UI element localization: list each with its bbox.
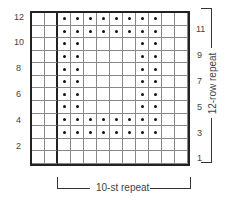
chart-cell — [71, 151, 84, 164]
row-label: 5 — [197, 102, 202, 112]
purl-dot-icon — [102, 118, 105, 121]
chart-cell — [84, 13, 97, 26]
purl-dot-icon — [63, 42, 66, 45]
chart-cell — [71, 26, 84, 39]
purl-dot-icon — [141, 42, 144, 45]
purl-dot-icon — [89, 30, 92, 33]
chart-cell — [175, 76, 188, 89]
chart-cell — [97, 38, 110, 51]
chart-cell — [123, 114, 136, 127]
chart-cell — [84, 151, 97, 164]
chart-cell — [123, 76, 136, 89]
chart-cell — [97, 63, 110, 76]
chart-cell — [32, 13, 45, 26]
chart-cell — [84, 88, 97, 101]
chart-cell — [84, 114, 97, 127]
chart-cell — [45, 76, 58, 89]
stitch-repeat-label: 10-st repeat — [96, 182, 149, 193]
purl-dot-icon — [63, 30, 66, 33]
purl-dot-icon — [63, 131, 66, 134]
chart-cell — [58, 63, 71, 76]
chart-cell — [136, 139, 149, 152]
chart-cell — [32, 51, 45, 64]
purl-dot-icon — [141, 17, 144, 20]
purl-dot-icon — [154, 105, 157, 108]
chart-cell — [175, 126, 188, 139]
purl-dot-icon — [115, 131, 118, 134]
chart-cell — [162, 139, 175, 152]
chart-cell — [32, 76, 45, 89]
purl-dot-icon — [63, 80, 66, 83]
chart-cell — [45, 38, 58, 51]
chart-cell — [123, 13, 136, 26]
chart-cell — [71, 63, 84, 76]
row-label: 8 — [16, 63, 21, 73]
purl-dot-icon — [115, 30, 118, 33]
purl-dot-icon — [102, 30, 105, 33]
chart-cell — [97, 26, 110, 39]
chart-cell — [110, 13, 123, 26]
row-label: 7 — [197, 76, 202, 86]
purl-dot-icon — [76, 131, 79, 134]
chart-cell — [110, 114, 123, 127]
chart-cell — [123, 63, 136, 76]
chart-cell — [149, 88, 162, 101]
chart-cell — [149, 38, 162, 51]
chart-cell — [32, 63, 45, 76]
chart-cell — [175, 151, 188, 164]
purl-dot-icon — [63, 93, 66, 96]
purl-dot-icon — [76, 42, 79, 45]
chart-cell — [149, 26, 162, 39]
chart-cell — [162, 63, 175, 76]
row-repeat-label: 12-row repeat — [207, 42, 218, 126]
purl-dot-icon — [63, 17, 66, 20]
chart-cell — [84, 139, 97, 152]
chart-cell — [97, 101, 110, 114]
chart-cell — [32, 126, 45, 139]
chart-cell — [162, 101, 175, 114]
repeat-bracket — [57, 188, 90, 189]
chart-cell — [123, 88, 136, 101]
row-label: 4 — [16, 115, 21, 125]
chart-cell — [162, 76, 175, 89]
chart-cell — [175, 88, 188, 101]
chart-cell — [84, 51, 97, 64]
chart-cell — [97, 126, 110, 139]
chart-cell — [149, 139, 162, 152]
purl-dot-icon — [154, 80, 157, 83]
chart-cell — [32, 101, 45, 114]
chart-cell — [162, 88, 175, 101]
chart-cell — [84, 38, 97, 51]
chart-cell — [58, 76, 71, 89]
purl-dot-icon — [154, 30, 157, 33]
chart-cell — [45, 151, 58, 164]
chart-cell — [136, 101, 149, 114]
chart-cell — [162, 114, 175, 127]
repeat-bracket — [201, 162, 212, 163]
row-label: 11 — [196, 24, 205, 34]
chart-cell — [175, 114, 188, 127]
purl-dot-icon — [76, 118, 79, 121]
purl-dot-icon — [63, 118, 66, 121]
chart-cell — [45, 126, 58, 139]
purl-dot-icon — [63, 68, 66, 71]
repeat-bracket — [150, 188, 181, 189]
repeat-bracket — [201, 8, 212, 9]
purl-dot-icon — [76, 93, 79, 96]
chart-cell — [110, 139, 123, 152]
purl-dot-icon — [141, 68, 144, 71]
chart-cell — [71, 126, 84, 139]
chart-cell — [58, 88, 71, 101]
purl-dot-icon — [141, 131, 144, 134]
chart-cell — [97, 88, 110, 101]
chart-cell — [110, 51, 123, 64]
chart-cell — [71, 38, 84, 51]
chart-cell — [71, 101, 84, 114]
purl-dot-icon — [76, 105, 79, 108]
chart-cell — [123, 51, 136, 64]
purl-dot-icon — [128, 131, 131, 134]
chart-cell — [123, 26, 136, 39]
purl-dot-icon — [89, 131, 92, 134]
chart-cell — [175, 38, 188, 51]
purl-dot-icon — [128, 30, 131, 33]
